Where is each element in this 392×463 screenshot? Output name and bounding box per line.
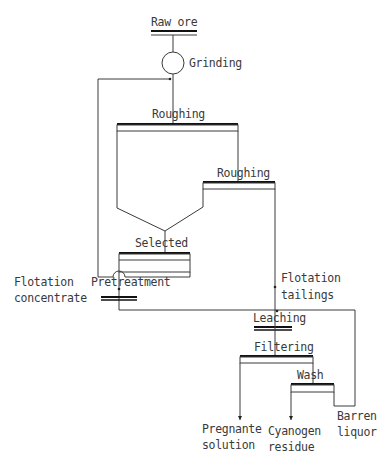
barren-liquor-label-2: liquor: [337, 425, 377, 440]
roughing-1-froth-line: [117, 131, 165, 231]
leaching-label: Leaching: [253, 311, 306, 326]
roughing-1-label: Roughing: [152, 107, 205, 122]
grinding-label: Grinding: [189, 56, 242, 71]
roughing-2-froth-line: [165, 189, 203, 231]
pregnant-solution-label-1: Pregnante: [202, 422, 262, 437]
wash-cell: [291, 385, 334, 392]
flotation-tailings-label-1: Flotation: [281, 271, 341, 286]
grinding-mill-icon: [162, 52, 184, 74]
flotation-tailings-label-2: tailings: [281, 288, 334, 303]
roughing-2-label: Roughing: [217, 166, 270, 181]
selected-label: Selected: [135, 236, 188, 251]
barren-liquor-label-1: Barren: [337, 409, 377, 424]
wash-label: Wash: [297, 368, 324, 383]
selected-cell: [119, 254, 190, 272]
filtering-label: Filtering: [254, 340, 314, 355]
pregnant-solution-label-2: solution: [202, 438, 255, 453]
raw-ore-label: Raw ore: [151, 15, 197, 30]
filtering-cell: [240, 357, 313, 363]
flotation-concentrate-label-1: Flotation: [14, 275, 74, 290]
cyanogen-residue-label-2: residue: [268, 440, 314, 455]
pretreatment-label: Pretreatment: [91, 275, 170, 290]
roughing-1-cell: [117, 125, 238, 131]
cyanogen-residue-label-1: Cyanogen: [268, 424, 321, 439]
flotation-concentrate-label-2: concentrate: [14, 291, 87, 306]
roughing-2-cell: [203, 183, 275, 189]
